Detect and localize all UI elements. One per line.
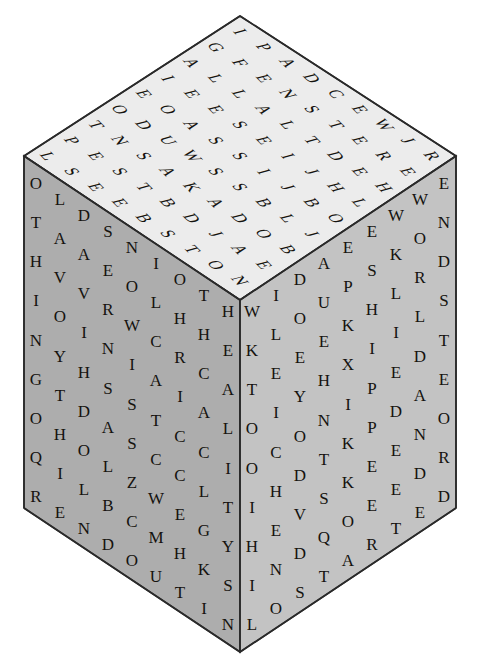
right-face-cell: L bbox=[415, 307, 425, 326]
right-face-cell: R bbox=[414, 268, 426, 287]
right-face-cell: S bbox=[319, 489, 328, 508]
left-face-cell: O bbox=[30, 174, 42, 193]
left-face-cell: C bbox=[150, 450, 161, 469]
left-face-cell: C bbox=[126, 512, 137, 531]
left-face-cell: M bbox=[148, 528, 163, 547]
left-face-cell: R bbox=[174, 348, 186, 367]
right-face-cell: U bbox=[318, 293, 330, 312]
right-face-cell: E bbox=[367, 222, 377, 241]
right-face-cell: R bbox=[366, 535, 378, 554]
right-face-cell: E bbox=[391, 363, 401, 382]
right-face-cell: P bbox=[367, 379, 376, 398]
left-face-cell: N bbox=[222, 615, 234, 634]
right-face-cell: E bbox=[343, 238, 353, 257]
left-face-cell: L bbox=[223, 419, 233, 438]
right-face-cell: I bbox=[249, 576, 255, 595]
left-face-cell: D bbox=[78, 206, 90, 225]
right-face-cell: W bbox=[388, 206, 405, 225]
left-face-cell: R bbox=[102, 300, 114, 319]
right-face-cell: T bbox=[391, 519, 402, 538]
left-face-cell: A bbox=[78, 245, 91, 264]
left-face-cell: C bbox=[198, 443, 209, 462]
right-face-cell: T bbox=[319, 450, 330, 469]
right-face-cell: E bbox=[367, 457, 377, 476]
left-face-cell: T bbox=[55, 386, 66, 405]
right-face-cell: H bbox=[246, 537, 258, 556]
left-face-cell: L bbox=[55, 190, 65, 209]
left-face-cell: Q bbox=[30, 448, 42, 467]
right-face-cell: L bbox=[271, 325, 281, 344]
right-face-cell: D bbox=[294, 466, 306, 485]
right-face-cell: K bbox=[390, 245, 403, 264]
right-face-cell: E bbox=[391, 480, 401, 499]
right-face-cell: P bbox=[343, 277, 352, 296]
right-face-cell: I bbox=[393, 323, 399, 342]
left-face-cell: S bbox=[223, 576, 232, 595]
left-face-cell: C bbox=[174, 466, 185, 485]
left-face-cell: S bbox=[127, 395, 136, 414]
right-face-cell: O bbox=[294, 309, 306, 328]
left-face-cell: C bbox=[150, 332, 161, 351]
right-face-cell: S bbox=[367, 261, 376, 280]
right-face-cell: I bbox=[249, 498, 255, 517]
cube-illustration: IPADCEWJRGFENSTEREALLALTDEHIEESEIJHLEOAS… bbox=[0, 0, 480, 666]
right-face-cell: L bbox=[391, 284, 401, 303]
left-face-cell: K bbox=[198, 560, 211, 579]
right-face-cell: H bbox=[270, 482, 282, 501]
right-face-cell: N bbox=[438, 213, 450, 232]
left-face-cell: A bbox=[222, 380, 235, 399]
left-face-cell: W bbox=[124, 316, 141, 335]
left-face-cell: E bbox=[55, 503, 65, 522]
left-face-cell: N bbox=[30, 331, 42, 350]
letter-cube-canvas: IPADCEWJRGFENSTEREALLALTDEHIEESEIJHLEOAS… bbox=[0, 0, 480, 666]
left-face-cell: T bbox=[31, 213, 42, 232]
left-face-cell: I bbox=[33, 291, 39, 310]
right-face-cell: A bbox=[318, 254, 331, 273]
left-face-cell: I bbox=[81, 323, 87, 342]
right-face-cell: V bbox=[294, 505, 307, 524]
right-face-cell: O bbox=[438, 409, 450, 428]
right-face-cell: K bbox=[246, 341, 259, 360]
left-face-cell: I bbox=[153, 254, 159, 273]
right-face-cell: D bbox=[438, 487, 450, 506]
right-face-cell: O bbox=[342, 512, 354, 531]
right-face-cell: D bbox=[414, 347, 426, 366]
left-face-cell: O bbox=[78, 441, 90, 460]
right-face-cell: H bbox=[318, 371, 330, 390]
right-face-cell: E bbox=[391, 441, 401, 460]
left-face-cell: I bbox=[57, 464, 63, 483]
left-face-cell: L bbox=[79, 480, 89, 499]
left-face-cell: L bbox=[199, 482, 209, 501]
left-face-cell: T bbox=[175, 583, 186, 602]
left-face-cell: H bbox=[30, 252, 42, 271]
left-face-cell: H bbox=[222, 302, 234, 321]
right-face-cell: E bbox=[271, 521, 281, 540]
right-face-cell: O bbox=[246, 419, 258, 438]
left-face-cell: O bbox=[174, 270, 186, 289]
left-face-cell: S bbox=[103, 222, 112, 241]
right-face-cell: K bbox=[342, 434, 355, 453]
right-face-cell: D bbox=[414, 464, 426, 483]
right-face-cell: H bbox=[366, 300, 378, 319]
left-face-cell: V bbox=[54, 268, 67, 287]
left-face-cell: N bbox=[126, 238, 138, 257]
right-face-cell: T bbox=[439, 331, 450, 350]
left-face-cell: H bbox=[174, 544, 186, 563]
left-face-cell: A bbox=[150, 371, 163, 390]
left-face-cell: G bbox=[198, 521, 210, 540]
left-face-cell: C bbox=[198, 364, 209, 383]
left-face-cell: Z bbox=[127, 473, 137, 492]
right-face-cell: Y bbox=[294, 387, 306, 406]
left-face-cell: H bbox=[198, 325, 210, 344]
right-face-cell: E bbox=[439, 370, 449, 389]
right-face-cell: E bbox=[271, 364, 281, 383]
right-face-cell: O bbox=[246, 459, 258, 478]
right-face-cell: I bbox=[273, 286, 279, 305]
right-face-cell: X bbox=[342, 355, 354, 374]
left-face-cell: O bbox=[54, 307, 66, 326]
right-face-cell: O bbox=[414, 229, 426, 248]
left-face-cell: O bbox=[126, 551, 138, 570]
right-face-cell: E bbox=[319, 332, 329, 351]
right-face-cell: S bbox=[295, 583, 304, 602]
right-face-cell: E bbox=[367, 496, 377, 515]
